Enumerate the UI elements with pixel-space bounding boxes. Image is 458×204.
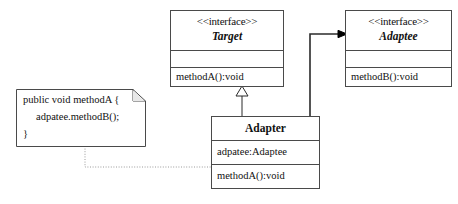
target-header: <<interface>> Target [171,11,283,51]
code-note[interactable]: public void methodA { adpatee.methodB();… [16,89,146,147]
adaptee-name: Adaptee [346,29,451,43]
uml-class-target[interactable]: <<interface>> Target methodA():void [170,10,284,87]
target-stereotype: <<interface>> [171,14,283,28]
code-note-line-3: } [23,127,28,140]
adapter-operation-0: methodA():void [217,170,285,181]
adapter-attributes-compartment: adpatee:Adaptee [212,141,319,165]
association-connector-adapter-adaptee [296,26,348,124]
target-attributes-compartment [171,51,283,68]
target-operations-compartment: methodA():void [171,68,283,86]
adaptee-attributes-compartment [346,51,451,68]
realization-connector-adapter-target [231,84,253,116]
code-note-line-1: public void methodA { [23,93,119,106]
code-note-line-2: adpatee.methodB(); [36,110,119,123]
adaptee-header: <<interface>> Adaptee [346,11,451,51]
adaptee-operations-compartment: methodB():void [346,68,451,86]
target-name: Target [171,29,283,43]
uml-class-diagram: <<interface>> Target methodA():void <<in… [0,0,458,204]
adapter-name: Adapter [212,121,319,135]
target-operation-0: methodA():void [176,71,244,82]
uml-class-adapter[interactable]: Adapter adpatee:Adaptee methodA():void [211,116,320,189]
adapter-attribute-0: adpatee:Adaptee [217,146,287,157]
adaptee-operation-0: methodB():void [351,71,418,82]
adapter-operations-compartment: methodA():void [212,165,319,188]
uml-class-adaptee[interactable]: <<interface>> Adaptee methodB():void [345,10,452,87]
adapter-header: Adapter [212,117,319,141]
adaptee-stereotype: <<interface>> [346,14,451,28]
note-anchor-dotted-line [84,146,216,172]
